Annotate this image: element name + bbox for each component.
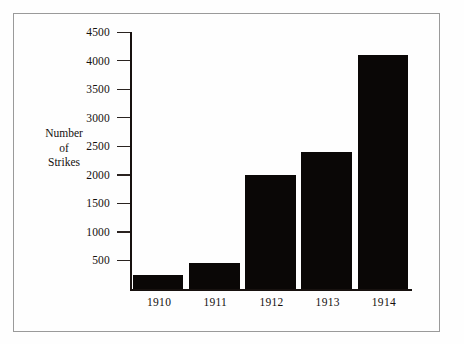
y-tick-label: 2000 — [86, 168, 110, 182]
y-tick-label: 3500 — [86, 82, 110, 96]
y-tick-4500: 4500 — [56, 25, 132, 39]
y-tick-label: 1500 — [86, 196, 110, 210]
y-tick-3000: 3000 — [56, 111, 132, 125]
x-axis-label-1912: 1912 — [243, 295, 299, 309]
y-tick-4000: 4000 — [56, 54, 132, 68]
bar-1914 — [358, 55, 409, 289]
y-tick-1500: 1500 — [56, 196, 132, 210]
x-axis-line — [130, 289, 412, 291]
bar-1911 — [189, 263, 240, 289]
x-axis-label-1910: 1910 — [131, 295, 187, 309]
x-axis-label-1911: 1911 — [187, 295, 243, 309]
y-tick-2000: 2000 — [56, 168, 132, 182]
y-tick-label: 4000 — [86, 54, 110, 68]
y-tick-1000: 1000 — [56, 225, 132, 239]
y-tick-label: 4500 — [86, 25, 110, 39]
y-tick-label: 3000 — [86, 111, 110, 125]
bar-1912 — [245, 175, 296, 289]
y-tick-label: 1000 — [86, 225, 110, 239]
y-tick-500: 500 — [56, 253, 132, 267]
bar-series — [130, 32, 412, 289]
plot-area: Number of Strikes 5001000150020002500300… — [0, 0, 464, 344]
y-tick-label: 500 — [92, 253, 110, 267]
y-tick-3500: 3500 — [56, 82, 132, 96]
y-tick-label: 2500 — [86, 139, 110, 153]
bar-1910 — [133, 275, 184, 289]
y-tick-2500: 2500 — [56, 139, 132, 153]
chart-figure: Number of Strikes 5001000150020002500300… — [0, 0, 464, 344]
x-axis-label-1913: 1913 — [300, 295, 356, 309]
x-axis-label-1914: 1914 — [356, 295, 412, 309]
bar-1913 — [301, 152, 352, 289]
